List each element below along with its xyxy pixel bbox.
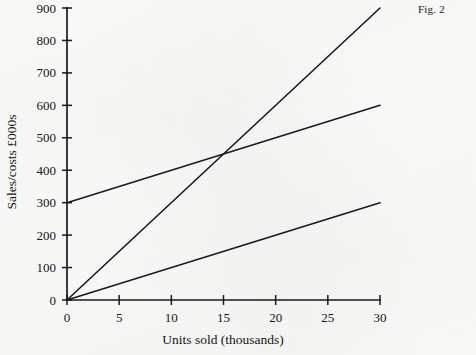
x-tick-label: 0: [64, 310, 71, 325]
y-tick-label: 600: [37, 98, 57, 113]
y-tick-label: 800: [37, 33, 57, 48]
x-tick-label: 25: [321, 310, 334, 325]
x-tick-label: 15: [217, 310, 230, 325]
y-tick-label: 100: [37, 260, 57, 275]
x-tick-label: 20: [269, 310, 282, 325]
x-tick-label: 5: [116, 310, 123, 325]
y-tick-label: 0: [50, 293, 57, 308]
series-line-variable-costs: [67, 203, 380, 300]
y-tick-label: 700: [37, 65, 57, 80]
figure-caption: Fig. 2: [418, 3, 445, 15]
y-tick-label: 400: [37, 163, 57, 178]
y-tick-label: 500: [37, 130, 57, 145]
y-tick-label: 300: [37, 195, 57, 210]
series-line-total-costs: [67, 105, 380, 202]
y-tick-label: 200: [37, 228, 57, 243]
y-tick-label: 900: [37, 1, 57, 16]
break-even-chart: 0100200300400500600700800900 05101520253…: [0, 0, 476, 355]
x-axis-title: Units sold (thousands): [162, 332, 284, 347]
x-tick-label: 30: [374, 310, 387, 325]
x-tick-label: 10: [165, 310, 178, 325]
y-axis-title: Sales/costs £000s: [4, 115, 19, 210]
chart-series-group: [67, 8, 380, 300]
figure-page: Fig. 2 0100200300400500600700800900 0510…: [0, 0, 476, 355]
